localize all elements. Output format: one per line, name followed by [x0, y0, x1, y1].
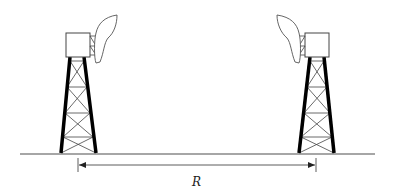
distance-dimension: R: [78, 158, 316, 189]
right-tower: [277, 15, 334, 153]
diagram-canvas: R: [0, 0, 395, 194]
left-tower: [61, 15, 117, 153]
arrowhead-left-icon: [79, 162, 86, 168]
distance-label: R: [191, 175, 201, 189]
arrowhead-right-icon: [308, 162, 315, 168]
left-antenna-horn-icon: [95, 15, 118, 63]
right-antenna-horn-icon: [277, 15, 301, 63]
left-tower-box: [66, 33, 90, 57]
right-tower-box: [305, 33, 329, 57]
